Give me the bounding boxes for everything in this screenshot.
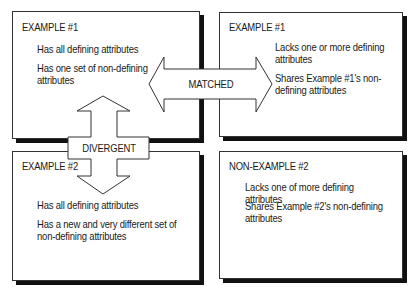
divergent-label: DIVERGENT bbox=[76, 142, 143, 154]
matched-label: MATCHED bbox=[183, 78, 239, 90]
arrows-layer bbox=[0, 0, 417, 290]
